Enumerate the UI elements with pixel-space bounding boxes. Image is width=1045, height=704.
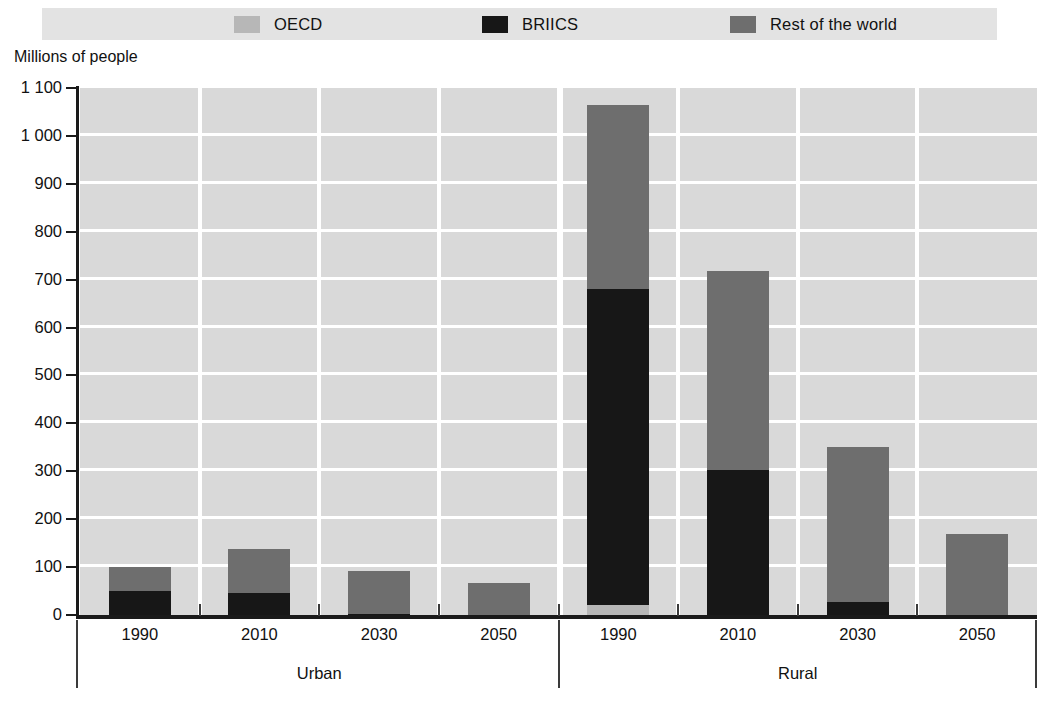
bar-stack <box>707 271 769 615</box>
y-axis-tick-label: 300 <box>0 461 62 480</box>
x-axis-tick <box>677 604 679 616</box>
y-axis-tick <box>66 183 77 185</box>
bar-segment <box>587 605 649 615</box>
gridline-x-1 <box>198 88 202 615</box>
y-axis-tick <box>66 327 77 329</box>
y-axis-tick <box>66 231 77 233</box>
y-axis-tick <box>66 374 77 376</box>
y-axis-tick <box>66 614 77 616</box>
legend-swatch-oecd-icon <box>234 16 260 33</box>
bar-segment <box>587 105 649 289</box>
legend-label-briics: BRIICS <box>522 15 578 34</box>
y-axis-tick-label: 400 <box>0 413 62 432</box>
group-separator <box>76 620 78 688</box>
x-axis-tick-label: 2030 <box>808 625 908 644</box>
bar-segment <box>587 289 649 605</box>
x-axis-line <box>76 615 1037 619</box>
group-separator <box>1035 620 1037 688</box>
x-axis-tick <box>558 604 560 616</box>
bar-segment <box>109 567 171 591</box>
x-axis-tick-label: 2010 <box>209 625 309 644</box>
y-axis-tick-label: 100 <box>0 557 62 576</box>
y-axis-title: Millions of people <box>14 48 138 66</box>
y-axis-tick-label: 500 <box>0 365 62 384</box>
y-axis-tick-label: 0 <box>0 605 62 624</box>
y-axis-tick-label: 200 <box>0 509 62 528</box>
y-axis-tick-label: 700 <box>0 270 62 289</box>
y-axis-tick-label: 900 <box>0 174 62 193</box>
bar-stack <box>109 567 171 615</box>
y-axis-tick <box>66 422 77 424</box>
y-axis-tick <box>66 566 77 568</box>
gridline-x-5 <box>676 88 680 615</box>
x-axis-tick-label: 1990 <box>568 625 668 644</box>
group-separator <box>558 620 560 688</box>
bar-stack <box>946 534 1008 615</box>
legend-swatch-rest-of-the-world-icon <box>730 16 756 33</box>
x-axis-tick <box>318 604 320 616</box>
bar-segment <box>109 591 171 615</box>
x-axis-tick <box>438 604 440 616</box>
group-label-rural: Rural <box>559 664 1038 683</box>
y-axis-tick-label: 600 <box>0 318 62 337</box>
x-axis-tick <box>797 604 799 616</box>
legend-item-briics: BRIICS <box>482 15 578 34</box>
y-axis-line <box>76 86 79 617</box>
gridline-x-2 <box>317 88 321 615</box>
bar-segment <box>827 602 889 615</box>
legend-item-oecd: OECD <box>234 15 322 34</box>
y-axis-tick <box>66 518 77 520</box>
x-axis-tick-label: 2050 <box>449 625 549 644</box>
bar-stack <box>587 105 649 615</box>
bar-segment <box>228 593 290 615</box>
gridline-x-7 <box>915 88 919 615</box>
bar-stack <box>228 549 290 615</box>
x-axis-tick <box>199 604 201 616</box>
y-axis-tick <box>66 135 77 137</box>
chart-legend: OECD BRIICS Rest of the world <box>42 8 997 40</box>
x-axis-tick-label: 1990 <box>90 625 190 644</box>
gridline-x-4 <box>557 88 563 615</box>
plot-area <box>80 88 1037 615</box>
legend-item-rest-of-the-world: Rest of the world <box>730 15 897 34</box>
x-axis-tick-label: 2010 <box>688 625 788 644</box>
gridline-x-3 <box>437 88 441 615</box>
y-axis-tick-label: 1 000 <box>0 126 62 145</box>
x-axis-tick <box>916 604 918 616</box>
bar-segment <box>707 470 769 615</box>
y-axis-tick <box>66 87 77 89</box>
y-axis-tick <box>66 279 77 281</box>
y-axis-tick <box>66 470 77 472</box>
legend-label-oecd: OECD <box>274 15 322 34</box>
legend-swatch-briics-icon <box>482 16 508 33</box>
bar-stack <box>827 447 889 615</box>
x-axis-tick-label: 2050 <box>927 625 1027 644</box>
gridline-x-6 <box>796 88 800 615</box>
bar-segment <box>946 534 1008 615</box>
legend-label-rest-of-the-world: Rest of the world <box>770 15 897 34</box>
y-axis-tick-label: 800 <box>0 222 62 241</box>
x-axis-tick-label: 2030 <box>329 625 429 644</box>
bar-segment <box>707 271 769 470</box>
bar-segment <box>468 583 530 615</box>
bar-segment <box>228 549 290 594</box>
y-axis-tick-label: 1 100 <box>0 78 62 97</box>
bar-stack <box>468 583 530 615</box>
bar-segment <box>827 447 889 601</box>
bar-stack <box>348 571 410 615</box>
bar-segment <box>348 571 410 614</box>
group-label-urban: Urban <box>80 664 559 683</box>
